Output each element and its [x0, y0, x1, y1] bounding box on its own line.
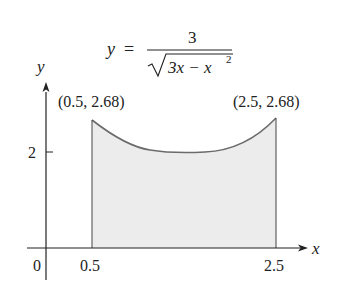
- y-tick-label-2: 2: [28, 144, 36, 161]
- equation-equals: =: [124, 39, 134, 59]
- origin-label: 0: [33, 257, 41, 274]
- x-tick-label-2-5: 2.5: [264, 257, 284, 274]
- equation-lhs: y: [105, 39, 115, 59]
- x-axis-label: x: [311, 239, 320, 258]
- left-point-annotation: (0.5, 2.68): [58, 93, 125, 111]
- shaded-region: [92, 118, 276, 248]
- y-axis-arrow-icon: [43, 82, 50, 92]
- right-point-annotation: (2.5, 2.68): [233, 93, 300, 111]
- x-tick-label-0-5: 0.5: [80, 257, 100, 274]
- equation-numerator: 3: [188, 28, 197, 47]
- equation-exponent: 2: [226, 53, 232, 65]
- chart: y x 0 0.5 2.5 2 (0.5, 2.68) (2.5, 2.68) …: [0, 0, 340, 288]
- y-axis-label: y: [35, 57, 45, 76]
- equation-denominator: 3x − x: [167, 58, 212, 77]
- equation-title: y = 3 3x − x 2: [105, 28, 233, 77]
